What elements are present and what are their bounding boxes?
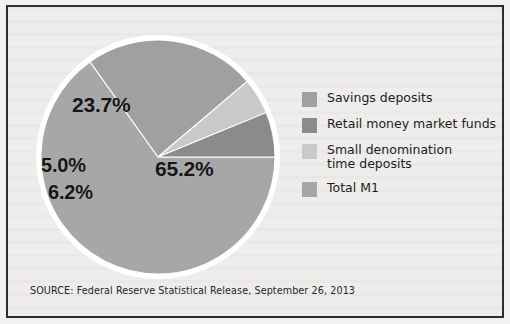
source-note: SOURCE: Federal Reserve Statistical Rele… (30, 285, 355, 296)
legend-item[interactable]: Retail money market funds (302, 117, 507, 133)
legend-item[interactable]: Savings deposits (302, 91, 507, 107)
slice-label-total-m1: 65.2% (155, 157, 214, 181)
legend-item-label: Small denomination time deposits (327, 143, 452, 171)
legend-item-label: Total M1 (327, 181, 379, 195)
legend-swatch-icon (302, 144, 317, 159)
figure-frame: 23.7% 65.2% 5.0% 6.2% Savings depositsRe… (6, 5, 504, 318)
legend-item[interactable]: Small denomination time deposits (302, 143, 507, 171)
pie-chart-figure: 23.7% 65.2% 5.0% 6.2% Savings depositsRe… (0, 0, 510, 324)
slice-label-savings-deposits: 23.7% (72, 93, 131, 117)
chart-legend: Savings depositsRetail money market fund… (302, 91, 507, 207)
legend-swatch-icon (302, 182, 317, 197)
pie-chart: 23.7% 65.2% 5.0% 6.2% (32, 31, 284, 283)
legend-item[interactable]: Total M1 (302, 181, 507, 197)
legend-swatch-icon (302, 118, 317, 133)
legend-item-label: Retail money market funds (327, 117, 496, 131)
legend-swatch-icon (302, 92, 317, 107)
legend-item-label: Savings deposits (327, 91, 432, 105)
slice-label-retail-money-market-funds: 6.2% (48, 181, 93, 204)
slice-label-small-denomination-time-deposits: 5.0% (41, 154, 86, 177)
